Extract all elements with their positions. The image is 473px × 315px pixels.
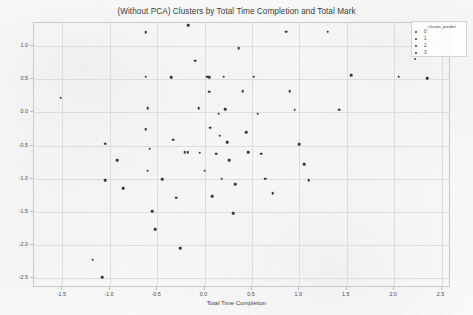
y-tick-label: -1.0 (14, 175, 28, 181)
data-point (272, 192, 275, 195)
y-tick-label: -2.5 (14, 274, 28, 280)
y-tick (30, 78, 33, 79)
y-tick (30, 277, 33, 278)
legend-item-label: 2 (424, 43, 427, 48)
y-tick-label: -1.5 (14, 208, 28, 214)
legend-marker-icon (415, 45, 417, 47)
gridline-vertical (394, 23, 395, 286)
legend-item-label: 1 (424, 36, 427, 41)
data-point (303, 163, 306, 166)
gridline-horizontal (34, 278, 449, 279)
data-point (194, 59, 197, 62)
legend-item-label: 0 (424, 29, 427, 34)
data-point (198, 107, 201, 110)
gridline-horizontal (34, 179, 449, 180)
legend[interactable]: cluster_predict 0123 (411, 21, 467, 57)
y-tick (30, 145, 33, 146)
data-point (154, 228, 157, 231)
data-point (145, 75, 148, 78)
data-point (226, 141, 229, 144)
x-axis-title: Total Time Completion (0, 300, 473, 306)
data-point (172, 138, 175, 141)
data-point (104, 179, 107, 182)
data-point (218, 112, 221, 115)
data-point (148, 148, 151, 151)
x-tick (298, 287, 299, 290)
gridline-vertical (299, 23, 300, 286)
data-point (298, 143, 301, 146)
x-tick-label: 1.0 (295, 291, 303, 297)
y-tick (30, 111, 33, 112)
data-point (285, 30, 288, 33)
data-point (293, 108, 296, 111)
x-tick (346, 287, 347, 290)
gridline-vertical (62, 23, 63, 286)
data-point (228, 159, 231, 162)
y-tick-label: 0.0 (14, 108, 28, 114)
x-tick (156, 287, 157, 290)
gridline-horizontal (34, 212, 449, 213)
x-tick (393, 287, 394, 290)
data-point (398, 75, 401, 78)
data-point (338, 108, 341, 111)
data-point (146, 169, 149, 172)
data-point (237, 47, 240, 50)
data-point (203, 169, 206, 172)
gridline-vertical (252, 23, 253, 286)
data-point (253, 75, 256, 78)
data-point (208, 76, 211, 79)
legend-marker-icon (415, 31, 417, 33)
data-point (91, 258, 94, 261)
gridline-vertical (347, 23, 348, 286)
gridline-horizontal (34, 46, 449, 47)
data-point (289, 90, 292, 93)
gridline-horizontal (34, 245, 449, 246)
x-tick (251, 287, 252, 290)
data-point (59, 97, 62, 100)
data-point (145, 31, 148, 34)
data-point (426, 77, 429, 80)
gridline-vertical (442, 23, 443, 286)
x-tick (61, 287, 62, 290)
y-tick-label: 0.5 (14, 75, 28, 81)
data-point (179, 247, 182, 250)
data-point (170, 76, 173, 79)
x-tick (441, 287, 442, 290)
y-tick (30, 45, 33, 46)
data-point (245, 131, 248, 134)
data-point (220, 177, 223, 180)
data-point (260, 152, 263, 155)
data-point (222, 75, 225, 78)
y-tick (30, 178, 33, 179)
data-point (241, 90, 244, 93)
data-point (234, 183, 237, 186)
gridline-vertical (110, 23, 111, 286)
data-point (326, 30, 329, 33)
x-tick-label: -1.0 (104, 291, 113, 297)
data-point (146, 107, 149, 110)
data-point (151, 210, 154, 213)
gridline-vertical (157, 23, 158, 286)
data-point (247, 151, 250, 154)
gridline-horizontal (34, 79, 449, 80)
y-tick-label: -0.5 (14, 142, 28, 148)
data-point (350, 74, 353, 77)
data-point (116, 159, 119, 162)
data-point (187, 24, 190, 27)
x-tick (109, 287, 110, 290)
data-point (211, 195, 214, 198)
y-tick-label: -2.0 (14, 241, 28, 247)
gridline-horizontal (34, 112, 449, 113)
legend-item-label: 3 (424, 50, 427, 55)
x-tick (204, 287, 205, 290)
data-point (208, 91, 211, 94)
legend-title: cluster_predict (428, 24, 456, 29)
data-point (186, 151, 189, 154)
data-point (215, 152, 218, 155)
data-point (232, 212, 235, 215)
data-point (122, 187, 125, 190)
gridline-vertical (205, 23, 206, 286)
data-point (199, 152, 202, 155)
data-point (145, 128, 148, 131)
data-point (209, 126, 212, 129)
